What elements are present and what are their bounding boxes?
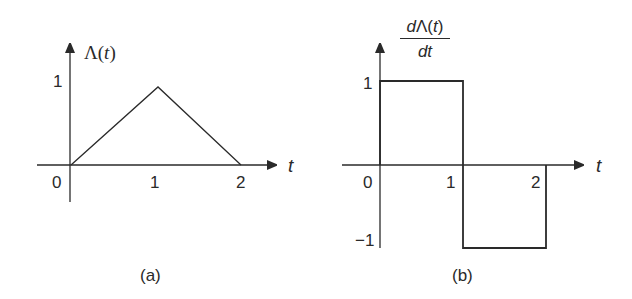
panel-b-y-tick-1: 1 [363,75,372,92]
panel-b-y-label-close: ) [438,17,444,36]
panel-b [342,44,583,248]
panel-b-y-label-numerator: dΛ(t) [400,18,450,39]
panel-b-x-tick-0: 0 [363,174,372,191]
panel-a-x-tick-0: 0 [52,174,61,191]
panel-a-y-label: Λ(t) [84,43,116,62]
panel-b-y-label-denominator: dt [400,39,450,60]
panel-a-x-label: t [288,156,293,175]
panel-b-y-tick-neg1: −1 [355,232,374,249]
panel-a-y-label-prefix: Λ( [84,42,104,63]
panel-b-x-label: t [596,156,601,175]
panel-b-x-tick-1: 1 [446,174,455,191]
panel-b-y-label-lambda: Λ( [416,17,433,36]
panel-a-y-tick-1: 1 [53,73,62,90]
panel-b-caption: (b) [452,267,473,284]
panel-a-y-label-suffix: ) [109,42,115,63]
panel-a-caption: (a) [140,267,161,284]
panel-b-y-label-d: d [407,17,416,36]
panel-b-y-label: dΛ(t) dt [400,18,450,60]
panel-b-x-tick-2: 2 [531,174,540,191]
panel-a-triangle-curve [71,87,241,165]
panel-a-x-tick-1: 1 [150,174,159,191]
panel-a-x-tick-2: 2 [236,174,245,191]
